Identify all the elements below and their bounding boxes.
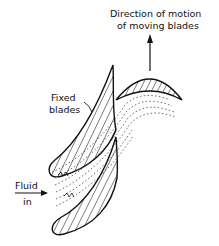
- direction-label-line2: of moving blades: [117, 20, 199, 31]
- fluid-label-line2: in: [23, 196, 32, 207]
- fixed-blades-leader: [84, 102, 92, 112]
- motion-arrow: [147, 34, 153, 71]
- fluid-label-line1: Fluid: [15, 180, 38, 191]
- fixed-label-line1: Fixed: [51, 92, 76, 103]
- moving-blade: [116, 70, 192, 110]
- turbine-blade-diagram: Direction of motion of moving blades Fix…: [0, 0, 219, 246]
- fixed-label-line2: blades: [49, 104, 80, 115]
- direction-label-line1: Direction of motion: [110, 8, 201, 19]
- fixed-blade-lower: [40, 125, 149, 245]
- fixed-blade-upper: [40, 60, 156, 185]
